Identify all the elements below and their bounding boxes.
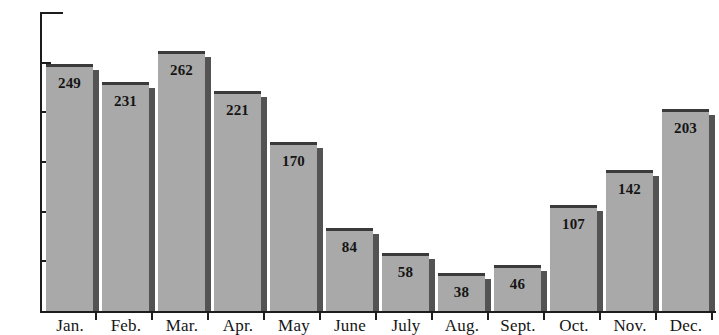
bar[interactable]: 203 [662, 109, 709, 311]
x-axis-label: Oct. [546, 316, 602, 335]
bar[interactable]: 58 [382, 253, 429, 311]
bar[interactable]: 170 [270, 142, 317, 311]
x-axis-label: July [378, 316, 434, 335]
bar-slot: 249 [42, 13, 98, 311]
bar-slot: 46 [490, 13, 546, 311]
bar-slot: 221 [210, 13, 266, 311]
x-axis-label: Dec. [658, 316, 714, 335]
bar[interactable]: 84 [326, 228, 373, 311]
bar-value-label: 231 [102, 93, 149, 110]
x-axis-label: June [322, 316, 378, 335]
x-axis-label: Sept. [490, 316, 546, 335]
bar-value-label: 221 [214, 102, 261, 119]
bar[interactable]: 107 [550, 205, 597, 311]
bar-value-label: 58 [382, 264, 429, 281]
x-axis-label: Apr. [210, 316, 266, 335]
x-axis-line [40, 311, 716, 313]
bar-value-label: 170 [270, 153, 317, 170]
x-axis-label: Jan. [42, 316, 98, 335]
bar-slot: 107 [546, 13, 602, 311]
bar-value-label: 46 [494, 276, 541, 293]
bar-value-label: 107 [550, 216, 597, 233]
bar[interactable]: 46 [494, 265, 541, 311]
bar-slot: 142 [602, 13, 658, 311]
bar-value-label: 262 [158, 62, 205, 79]
bar-slot: 84 [322, 13, 378, 311]
bar[interactable]: 142 [606, 170, 653, 311]
bar[interactable]: 231 [102, 82, 149, 311]
x-axis-label: May [266, 316, 322, 335]
bar[interactable]: 249 [46, 64, 93, 311]
bar-value-label: 203 [662, 120, 709, 137]
bar-value-label: 142 [606, 181, 653, 198]
bar-shadow [709, 115, 715, 311]
bar-slot: 58 [378, 13, 434, 311]
bar-slot: 38 [434, 13, 490, 311]
x-axis-label: Nov. [602, 316, 658, 335]
plot-area: 24923126222117084583846107142203 [42, 13, 716, 311]
bar-slot: 262 [154, 13, 210, 311]
bar-value-label: 38 [438, 284, 485, 301]
bar[interactable]: 38 [438, 273, 485, 311]
bar-slot: 231 [98, 13, 154, 311]
x-axis-label: Mar. [154, 316, 210, 335]
bar-value-label: 84 [326, 239, 373, 256]
bar-chart: 050100150200250300 249231262221170845838… [0, 0, 719, 335]
x-axis-label: Aug. [434, 316, 490, 335]
bar-slot: 203 [658, 13, 714, 311]
bar[interactable]: 262 [158, 51, 205, 311]
bar-slot: 170 [266, 13, 322, 311]
bar[interactable]: 221 [214, 91, 261, 311]
bar-value-label: 249 [46, 75, 93, 92]
x-axis-label: Feb. [98, 316, 154, 335]
